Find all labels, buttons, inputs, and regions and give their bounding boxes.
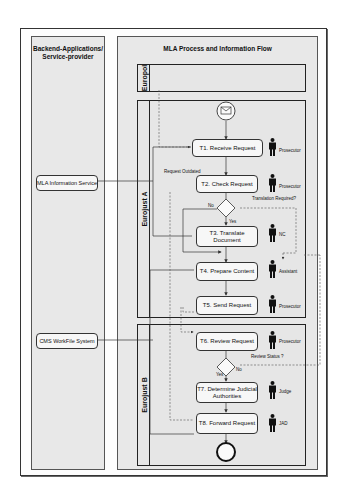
actor-label-t3: NC (279, 232, 286, 237)
label-no-1: No (208, 203, 214, 208)
actor-label-t6: Prosecutor (279, 339, 301, 344)
actor-label-t4: Assistant (279, 269, 297, 274)
label-no-2: No (236, 367, 242, 372)
actor-icon (269, 381, 276, 399)
note-request-outdated: Request Outdated (164, 169, 201, 174)
actor-label-t1: Prosecutor (279, 148, 301, 153)
note-review-status: Review Status ? (251, 354, 284, 359)
actor-icon (269, 174, 276, 192)
actor-icon (269, 138, 276, 156)
actor-label-t2: Prosecutor (279, 184, 301, 189)
actor-label-t8: JAD (279, 421, 288, 426)
actor-icon (269, 295, 276, 313)
label-yes-1: Yes (229, 219, 236, 224)
actor-label-t5: Prosecutor (279, 304, 301, 309)
actor-icon (269, 414, 276, 432)
note-translation-required: Translation Required? (252, 196, 296, 201)
actor-icon (269, 224, 276, 242)
actor-icon (269, 260, 276, 278)
actors (0, 0, 356, 496)
actor-icon (269, 331, 276, 349)
actor-label-t7: Judge (279, 389, 291, 394)
label-yes-2: Yes (216, 372, 223, 377)
